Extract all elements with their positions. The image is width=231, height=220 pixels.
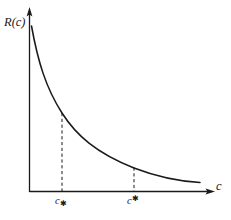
tick-script-1: ✱ — [132, 194, 139, 203]
tick-script-0: ✱ — [60, 199, 67, 208]
x-tick-label-c-sub-star: c✱ — [55, 196, 67, 207]
figure-container: R(c) c c✱ c✱ — [0, 0, 231, 220]
plot-canvas — [0, 0, 231, 220]
y-axis-label: R(c) — [4, 16, 26, 29]
x-tick-label-c-sup-star: c✱ — [127, 195, 139, 207]
x-axis-label: c — [216, 180, 222, 193]
response-curve — [32, 26, 201, 183]
